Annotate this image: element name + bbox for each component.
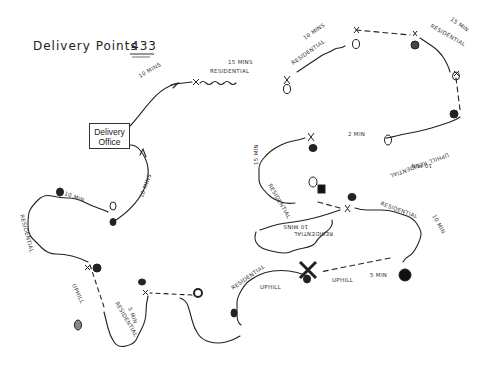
x-mark-icon	[193, 79, 199, 85]
delivery-point-filled	[110, 219, 116, 226]
delivery-point-filled	[411, 41, 419, 49]
delivery-point-filled	[304, 275, 311, 283]
wavy-route	[386, 117, 460, 138]
outbound-leg	[130, 82, 192, 126]
route-labels: 10 MINS 10 MINS 15 MINS RESIDENTIAL 10 M…	[19, 16, 470, 338]
label-seg9-time: 5 MIN	[370, 272, 387, 278]
label-seg4-time: 10 MIN	[411, 163, 432, 169]
label-seg1-type: RESIDENTIAL	[210, 68, 250, 74]
delivery-point-open	[110, 202, 116, 210]
label-seg10-sub: UPHILL	[260, 284, 282, 290]
label-out-leg: 10 MINS	[138, 61, 163, 79]
route-paths	[28, 30, 460, 347]
label-seg1-time: 15 MINS	[228, 59, 253, 65]
label-seg6-time: 15 MIN	[253, 144, 259, 165]
delivery-point-open	[385, 135, 392, 145]
wavy-route	[420, 38, 450, 72]
delivery-point-grey	[75, 320, 82, 330]
delivery-point-open	[353, 40, 360, 49]
dashed-route	[356, 30, 410, 35]
route-map: Delivery Points 433	[0, 0, 493, 369]
x-markers	[85, 27, 459, 295]
label-seg14-time: 10 MIN	[64, 190, 86, 203]
wavy-route	[200, 82, 236, 85]
delivery-point-filled	[93, 264, 101, 272]
delivery-point-open	[309, 177, 317, 187]
delivery-point-filled	[57, 188, 64, 196]
label-seg7-type: RESIDENTIAL	[293, 231, 333, 237]
delivery-point-filled	[399, 269, 411, 281]
wavy-route	[28, 196, 108, 263]
label-seg7-time: 10 MINS	[283, 224, 308, 230]
delivery-office-box: Delivery Office	[89, 123, 130, 149]
label-seg13-type: RESIDENTIAL	[19, 214, 35, 254]
label-seg3-time: 15 MIN	[449, 16, 470, 33]
x-mark-icon	[143, 290, 148, 295]
delivery-point-filled	[348, 194, 356, 201]
x-mark-icon	[345, 205, 350, 212]
delivery-point-count: 433	[131, 39, 157, 53]
delivery-point-filled	[139, 279, 146, 285]
dashed-route	[320, 258, 390, 272]
delivery-point-filled	[309, 145, 317, 152]
delivery-point-open	[284, 85, 291, 94]
x-mark-icon	[413, 31, 417, 36]
label-seg2-time: 10 MINS	[302, 22, 326, 41]
label-seg5-time: 2 MIN	[348, 131, 365, 137]
label-return-leg: 10 MINS	[138, 173, 152, 199]
office-label-line2: Office	[90, 137, 129, 147]
delivery-point-filled	[231, 309, 237, 317]
wavy-route	[180, 298, 240, 343]
office-label-line1: Delivery	[90, 127, 129, 137]
label-seg2-type: RESIDENTIAL	[290, 38, 326, 66]
arrow-head-icon	[140, 149, 146, 157]
label-seg8-time: 10 MIN	[431, 214, 447, 235]
label-seg12-type: UPHILL	[71, 283, 86, 305]
dashed-route	[318, 202, 340, 208]
map-title: Delivery Points	[33, 39, 138, 53]
dashed-route	[456, 78, 460, 110]
delivery-point-filled	[450, 110, 458, 118]
x-mark-icon	[308, 133, 314, 141]
label-seg9-type: UPHILL	[332, 277, 354, 283]
dashed-route	[150, 293, 192, 295]
label-seg6-type: RESIDENTIAL	[267, 183, 292, 221]
delivery-point-open	[194, 289, 202, 297]
x-mark-icon	[284, 76, 290, 84]
delivery-point-square	[318, 185, 325, 193]
x-mark-icon	[85, 265, 90, 270]
delivery-markers	[57, 40, 460, 331]
wavy-route	[259, 138, 305, 203]
